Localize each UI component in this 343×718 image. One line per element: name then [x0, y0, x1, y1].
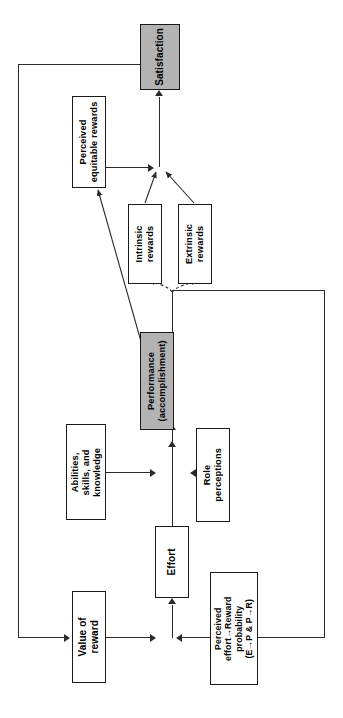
edge-satisfaction-feedback-top [18, 64, 140, 65]
arrowhead-value-junction [150, 634, 156, 642]
node-satisfaction-label: Satisfaction [154, 28, 166, 86]
edge-junction-to-effort [172, 605, 173, 638]
node-abilities-label: Abilities, skills, and knowledge [70, 448, 103, 497]
node-perceived-probability-label: Perceived effort→Reward probability (E→P… [213, 596, 255, 660]
edge-junction-to-performance [172, 430, 173, 472]
node-intrinsic-rewards-label: Intrinsic rewards [134, 225, 156, 262]
edge-performance-stem [172, 290, 173, 332]
node-satisfaction[interactable]: Satisfaction [140, 24, 180, 90]
edge-performance-feedback-top [172, 290, 325, 291]
edge-abilities-to-junction [106, 472, 150, 473]
arrowhead-to-value-of-reward [64, 634, 70, 642]
node-performance[interactable]: Performance (accomplishment) [140, 332, 174, 430]
node-role-perceptions-label: Role perceptions [202, 448, 224, 502]
arrowhead-to-effort [168, 598, 176, 604]
node-value-of-reward[interactable]: Value of reward [72, 591, 106, 683]
node-value-of-reward-label: Value of reward [77, 617, 101, 656]
node-perceived-equitable-rewards-label: Perceived equitable rewards [78, 102, 100, 183]
arrowhead-equitable-convergence [148, 164, 154, 172]
edge-performance-feedback-side [324, 290, 325, 637]
node-performance-label: Performance (accomplishment) [146, 340, 168, 421]
node-role-perceptions[interactable]: Role perceptions [196, 428, 230, 522]
edge-extrinsic-to-satisfaction [166, 172, 194, 203]
edge-feedback-to-probability [258, 637, 325, 638]
arrowhead-abilities-junction [150, 469, 156, 477]
node-perceived-probability[interactable]: Perceived effort→Reward probability (E→P… [210, 572, 258, 685]
edge-equitable-to-convergence [106, 167, 148, 168]
node-perceived-equitable-rewards[interactable]: Perceived equitable rewards [72, 96, 106, 188]
node-extrinsic-rewards[interactable]: Extrinsic rewards [178, 204, 212, 284]
edge-value-to-junction [106, 637, 150, 638]
arrowhead-to-satisfaction [155, 90, 163, 96]
arrowhead-probability-junction [176, 634, 182, 642]
edge-feedback-to-value [18, 637, 64, 638]
edge-convergence-to-satisfaction [159, 97, 160, 167]
node-intrinsic-rewards[interactable]: Intrinsic rewards [128, 204, 162, 284]
node-effort-label: Effort [166, 548, 178, 575]
node-abilities[interactable]: Abilities, skills, and knowledge [66, 424, 106, 520]
node-extrinsic-rewards-label: Extrinsic rewards [184, 224, 206, 264]
edge-intrinsic-to-satisfaction [145, 172, 156, 203]
edge-satisfaction-feedback-side [18, 64, 19, 638]
diagram-canvas: Satisfaction Perceived equitable rewards… [0, 0, 343, 718]
edge-probability-to-junction [182, 637, 210, 638]
node-effort[interactable]: Effort [155, 526, 189, 598]
